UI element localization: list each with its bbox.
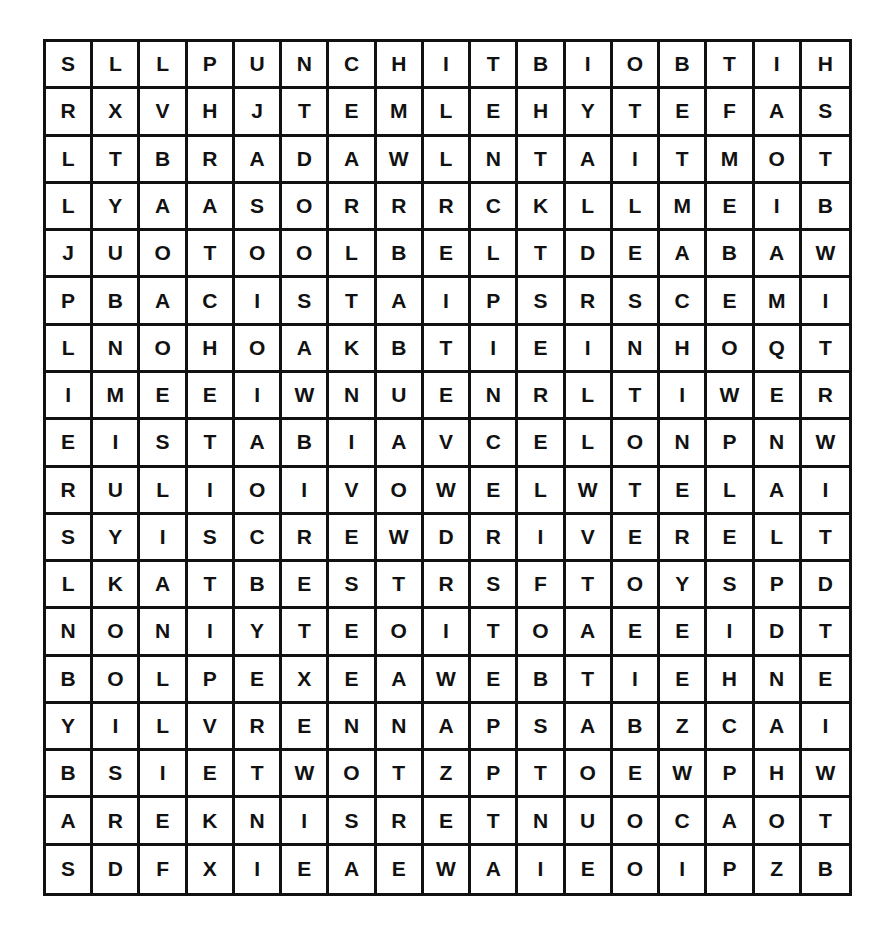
grid-cell[interactable]: O (235, 326, 282, 373)
grid-cell[interactable]: S (613, 278, 660, 325)
grid-cell[interactable]: W (566, 468, 613, 515)
grid-cell[interactable]: E (566, 846, 613, 893)
grid-cell[interactable]: D (755, 609, 802, 656)
grid-cell[interactable]: A (660, 231, 707, 278)
grid-cell[interactable]: N (755, 420, 802, 467)
grid-cell[interactable]: I (188, 468, 235, 515)
grid-cell[interactable]: T (707, 42, 754, 89)
grid-cell[interactable]: T (518, 137, 565, 184)
grid-cell[interactable]: W (377, 137, 424, 184)
grid-cell[interactable]: T (377, 562, 424, 609)
grid-cell[interactable]: C (707, 704, 754, 751)
grid-cell[interactable]: C (471, 420, 518, 467)
grid-cell[interactable]: E (282, 562, 329, 609)
grid-cell[interactable]: I (566, 326, 613, 373)
grid-cell[interactable]: N (660, 420, 707, 467)
grid-cell[interactable]: M (93, 373, 140, 420)
grid-cell[interactable]: Z (424, 751, 471, 798)
grid-cell[interactable]: S (46, 42, 93, 89)
grid-cell[interactable]: E (282, 704, 329, 751)
grid-cell[interactable]: O (755, 137, 802, 184)
grid-cell[interactable]: L (755, 515, 802, 562)
grid-cell[interactable]: E (424, 231, 471, 278)
grid-cell[interactable]: L (424, 137, 471, 184)
grid-cell[interactable]: T (518, 751, 565, 798)
grid-cell[interactable]: E (613, 751, 660, 798)
grid-cell[interactable]: T (471, 798, 518, 845)
grid-cell[interactable]: U (93, 231, 140, 278)
grid-cell[interactable]: N (93, 326, 140, 373)
grid-cell[interactable]: O (518, 609, 565, 656)
grid-cell[interactable]: E (660, 89, 707, 136)
grid-cell[interactable]: R (46, 89, 93, 136)
grid-cell[interactable]: E (660, 468, 707, 515)
grid-cell[interactable]: B (140, 137, 187, 184)
grid-cell[interactable]: M (755, 278, 802, 325)
grid-cell[interactable]: S (235, 184, 282, 231)
grid-cell[interactable]: N (329, 704, 376, 751)
grid-cell[interactable]: W (707, 373, 754, 420)
grid-cell[interactable]: E (188, 373, 235, 420)
grid-cell[interactable]: T (424, 326, 471, 373)
grid-cell[interactable]: B (802, 846, 849, 893)
grid-cell[interactable]: T (377, 751, 424, 798)
grid-cell[interactable]: I (235, 373, 282, 420)
grid-cell[interactable]: N (329, 373, 376, 420)
grid-cell[interactable]: A (566, 609, 613, 656)
grid-cell[interactable]: S (518, 278, 565, 325)
grid-cell[interactable]: B (93, 278, 140, 325)
grid-cell[interactable]: T (518, 231, 565, 278)
grid-cell[interactable]: E (613, 231, 660, 278)
grid-cell[interactable]: W (377, 515, 424, 562)
grid-cell[interactable]: R (660, 515, 707, 562)
grid-cell[interactable]: N (471, 373, 518, 420)
grid-cell[interactable]: D (282, 137, 329, 184)
grid-cell[interactable]: E (660, 657, 707, 704)
grid-cell[interactable]: R (424, 184, 471, 231)
grid-cell[interactable]: U (93, 468, 140, 515)
grid-cell[interactable]: O (613, 798, 660, 845)
grid-cell[interactable]: N (471, 137, 518, 184)
grid-cell[interactable]: E (140, 798, 187, 845)
grid-cell[interactable]: R (802, 373, 849, 420)
grid-cell[interactable]: T (566, 562, 613, 609)
grid-cell[interactable]: E (613, 609, 660, 656)
grid-cell[interactable]: L (93, 42, 140, 89)
grid-cell[interactable]: D (424, 515, 471, 562)
grid-cell[interactable]: Y (235, 609, 282, 656)
grid-cell[interactable]: W (802, 751, 849, 798)
grid-cell[interactable]: Y (660, 562, 707, 609)
grid-cell[interactable]: L (424, 89, 471, 136)
grid-cell[interactable]: O (282, 231, 329, 278)
grid-cell[interactable]: C (471, 184, 518, 231)
grid-cell[interactable]: B (46, 657, 93, 704)
grid-cell[interactable]: T (613, 468, 660, 515)
grid-cell[interactable]: T (188, 231, 235, 278)
grid-cell[interactable]: B (518, 42, 565, 89)
grid-cell[interactable]: Y (93, 184, 140, 231)
grid-cell[interactable]: N (755, 657, 802, 704)
grid-cell[interactable]: R (377, 798, 424, 845)
grid-cell[interactable]: R (235, 704, 282, 751)
grid-cell[interactable]: C (188, 278, 235, 325)
grid-cell[interactable]: I (802, 278, 849, 325)
grid-cell[interactable]: I (93, 420, 140, 467)
grid-cell[interactable]: H (377, 42, 424, 89)
grid-cell[interactable]: B (46, 751, 93, 798)
grid-cell[interactable]: O (377, 609, 424, 656)
grid-cell[interactable]: F (518, 562, 565, 609)
grid-cell[interactable]: Y (93, 515, 140, 562)
grid-cell[interactable]: S (188, 515, 235, 562)
grid-cell[interactable]: A (471, 846, 518, 893)
grid-cell[interactable]: I (755, 184, 802, 231)
grid-cell[interactable]: A (282, 326, 329, 373)
grid-cell[interactable]: O (93, 609, 140, 656)
grid-cell[interactable]: V (188, 704, 235, 751)
grid-cell[interactable]: A (329, 846, 376, 893)
grid-cell[interactable]: E (707, 278, 754, 325)
grid-cell[interactable]: D (93, 846, 140, 893)
grid-cell[interactable]: J (46, 231, 93, 278)
grid-cell[interactable]: A (755, 704, 802, 751)
grid-cell[interactable]: F (707, 89, 754, 136)
grid-cell[interactable]: O (613, 562, 660, 609)
